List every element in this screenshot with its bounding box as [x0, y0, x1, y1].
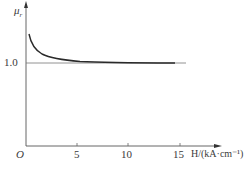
y-axis-label: μr	[14, 4, 22, 19]
x-tick-label-10: 10	[121, 148, 132, 160]
x-tick-label-15: 15	[173, 148, 184, 160]
y-axis-arrow-icon	[24, 1, 28, 8]
mu-r-curve	[29, 34, 175, 63]
y-axis-label-sub: r	[20, 11, 23, 19]
origin-label: O	[16, 148, 24, 160]
x-axis-label: H/(kA·cm⁻¹)	[191, 148, 243, 159]
x-tick-label-5: 5	[74, 148, 80, 160]
y-tick-label-1: 1.0	[4, 56, 18, 68]
